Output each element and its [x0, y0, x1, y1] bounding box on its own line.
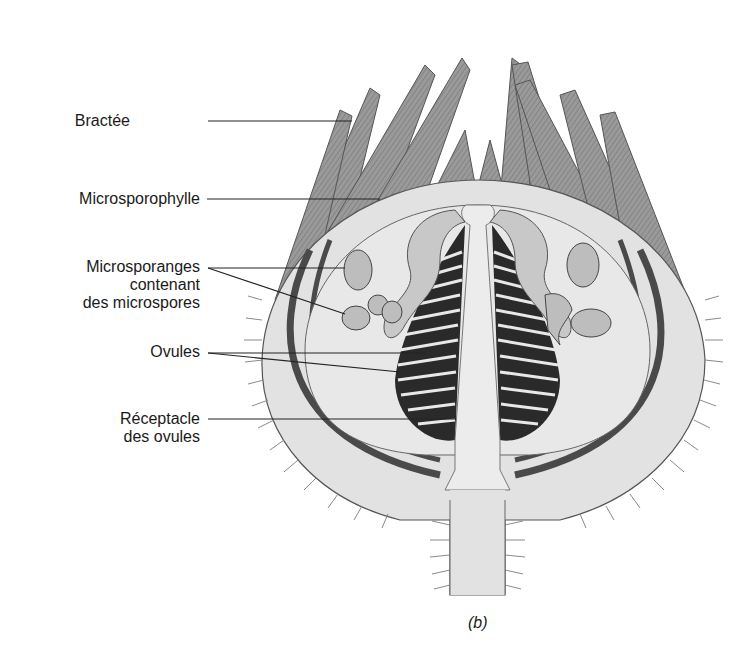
figure-canvas: Bractée Microsporophylle Microsporanges … — [0, 0, 746, 661]
label-microsporophylle: Microsporophylle — [79, 190, 200, 208]
label-line: Microsporophylle — [79, 190, 200, 208]
label-line: des microspores — [83, 294, 200, 312]
label-line: Bractée — [75, 112, 130, 130]
label-receptacle: Réceptacle des ovules — [120, 410, 200, 446]
peduncle — [450, 490, 505, 595]
label-ovules: Ovules — [150, 343, 200, 361]
label-line: Réceptacle — [120, 410, 200, 428]
cone-illustration — [0, 0, 746, 661]
label-line: Ovules — [150, 343, 200, 361]
label-bractee: Bractée — [75, 112, 130, 130]
figure-caption: (b) — [468, 614, 488, 632]
label-line: contenant — [83, 276, 200, 294]
label-microsporanges: Microsporanges contenant des microspores — [83, 258, 200, 312]
label-line: des ovules — [120, 428, 200, 446]
label-line: Microsporanges — [83, 258, 200, 276]
